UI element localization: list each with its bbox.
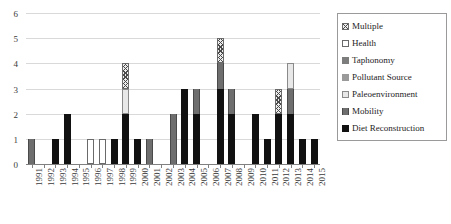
y-tick-label: 2: [14, 110, 19, 119]
bar-segment: [122, 114, 129, 164]
bar-segment: [99, 139, 106, 164]
legend-label: Health: [352, 39, 376, 48]
bar-1998[interactable]: [111, 139, 118, 164]
bar-2003[interactable]: [170, 114, 177, 164]
legend-item-mobility[interactable]: Mobility: [342, 103, 442, 120]
x-tick-label: 2002: [165, 168, 174, 186]
bar-1997[interactable]: [99, 139, 106, 164]
bar-1994[interactable]: [64, 114, 71, 164]
bar-segment: [193, 89, 200, 114]
legend: MultipleHealthTaphonomyPollutant SourceP…: [337, 13, 447, 141]
bar-1991[interactable]: [28, 139, 35, 164]
bar-1996[interactable]: [87, 139, 94, 164]
x-tick-label: 1997: [106, 168, 115, 186]
legend-item-paleoenvironment[interactable]: Paleoenvironment: [342, 86, 442, 103]
gridline-6: [26, 13, 320, 14]
bar-segment: [122, 63, 129, 88]
bar-segment: [111, 139, 118, 164]
y-axis: 0123456: [0, 14, 22, 165]
legend-item-diet-reconstruction[interactable]: Diet Reconstruction: [342, 120, 442, 137]
legend-swatch-icon: [342, 57, 349, 64]
bar-segment: [217, 89, 224, 165]
bar-2001[interactable]: [146, 139, 153, 164]
legend-item-taphonomy[interactable]: Taphonomy: [342, 52, 442, 69]
x-axis: 1991199219931994199519961997199819992000…: [26, 168, 320, 220]
legend-label: Paleoenvironment: [352, 90, 417, 99]
bar-segment: [287, 63, 294, 88]
bar-segment: [122, 89, 129, 114]
legend-label: Diet Reconstruction: [352, 124, 424, 133]
legend-swatch-icon: [342, 40, 349, 47]
legend-swatch-icon: [342, 125, 349, 132]
bar-segment: [64, 114, 71, 164]
x-tick-label: 2006: [212, 168, 221, 186]
y-tick-label: 6: [14, 10, 19, 19]
x-tick-label: 1994: [71, 168, 80, 186]
bar-segment: [228, 114, 235, 164]
bar-2008[interactable]: [228, 89, 235, 164]
x-tick-label: 2011: [271, 168, 280, 186]
bar-2010[interactable]: [252, 114, 259, 164]
x-tick-label: 1999: [129, 168, 138, 186]
bar-segment: [287, 89, 294, 114]
stacked-bar-chart: 0123456 19911992199319941995199619971998…: [0, 0, 451, 224]
y-tick-label: 3: [14, 85, 19, 94]
legend-label: Multiple: [352, 22, 383, 31]
bar-2013[interactable]: [287, 63, 294, 164]
bar-segment: [275, 89, 282, 114]
bar-segment: [87, 139, 94, 164]
y-tick-label: 0: [14, 161, 19, 170]
legend-swatch-icon: [342, 74, 349, 81]
x-tick-label: 1993: [59, 168, 68, 186]
bar-segment: [287, 114, 294, 164]
legend-swatch-icon: [342, 108, 349, 115]
x-tick-label: 1991: [35, 168, 44, 186]
x-tick-label: 2008: [235, 168, 244, 186]
bar-segment: [275, 114, 282, 164]
bar-segment: [228, 89, 235, 114]
x-tick-label: 1992: [47, 168, 56, 186]
plot-area: [26, 14, 320, 165]
bar-segment: [311, 139, 318, 164]
gridline-5: [26, 38, 320, 39]
x-tick-label: 2004: [188, 168, 197, 186]
x-tick-label: 2010: [259, 168, 268, 186]
bar-segment: [264, 139, 271, 164]
bar-segment: [28, 139, 35, 164]
bar-2011[interactable]: [264, 139, 271, 164]
gridline-4: [26, 63, 320, 64]
y-tick-label: 1: [14, 135, 19, 144]
x-tick-label: 2014: [306, 168, 315, 186]
x-tick-label: 2009: [247, 168, 256, 186]
x-tick-label: 1998: [118, 168, 127, 186]
bar-2015[interactable]: [311, 139, 318, 164]
x-tick-label: 1995: [82, 168, 91, 186]
x-tick-label: 2003: [177, 168, 186, 186]
legend-item-health[interactable]: Health: [342, 35, 442, 52]
bar-1999[interactable]: [122, 63, 129, 164]
bar-segment: [181, 89, 188, 165]
bar-2005[interactable]: [193, 89, 200, 164]
bar-segment: [299, 139, 306, 164]
legend-item-pollutant-source[interactable]: Pollutant Source: [342, 69, 442, 86]
bar-2007[interactable]: [217, 38, 224, 164]
x-tick-label: 2015: [318, 168, 327, 186]
bar-2004[interactable]: [181, 89, 188, 165]
bar-1993[interactable]: [52, 139, 59, 164]
x-tick-label: 2007: [224, 168, 233, 186]
bar-2014[interactable]: [299, 139, 306, 164]
y-tick-label: 4: [14, 60, 19, 69]
x-tick-label: 2012: [282, 168, 291, 186]
bar-2012[interactable]: [275, 89, 282, 164]
bar-2000[interactable]: [134, 139, 141, 164]
x-tick-label: 2013: [294, 168, 303, 186]
bar-segment: [146, 139, 153, 164]
x-tick-label: 1996: [94, 168, 103, 186]
bar-segment: [52, 139, 59, 164]
legend-label: Mobility: [352, 107, 384, 116]
legend-item-multiple[interactable]: Multiple: [342, 18, 442, 35]
x-tick-label: 2005: [200, 168, 209, 186]
y-tick-label: 5: [14, 35, 19, 44]
legend-swatch-icon: [342, 91, 349, 98]
bar-segment: [217, 63, 224, 88]
